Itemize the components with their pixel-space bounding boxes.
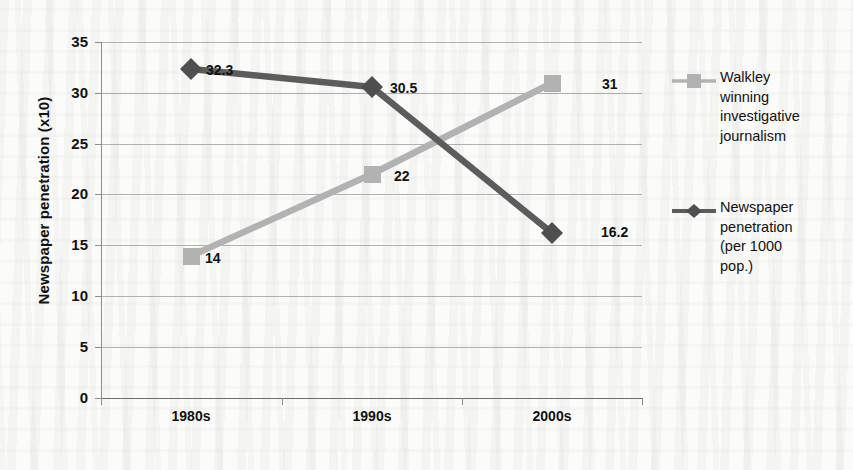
chart-legend: Walkley winning investigative journalism…	[672, 68, 847, 302]
legend-label-walkley: Walkley winning investigative journalism	[720, 68, 847, 146]
data-label-penetration-2000s: 16.2	[601, 224, 628, 240]
data-label-walkley-2000s: 31	[602, 76, 618, 92]
series-penetration-marker-1980s	[180, 58, 202, 80]
data-label-penetration-1980s: 32.3	[206, 62, 233, 78]
square-marker-icon	[672, 74, 716, 88]
legend-item-penetration[interactable]: Newspaper penetration (per 1000 pop.)	[672, 198, 847, 276]
data-label-walkley-1980s: 14	[205, 250, 221, 266]
diamond-marker-icon	[672, 204, 716, 218]
data-label-penetration-1990s: 30.5	[390, 80, 417, 96]
legend-label-penetration: Newspaper penetration (per 1000 pop.)	[720, 198, 847, 276]
series-walkley-marker-1980s	[183, 248, 200, 265]
series-walkley-marker-1990s	[364, 166, 381, 183]
line-chart: Newspaper penetration (x10) 35 30 25 20 …	[0, 0, 853, 470]
data-label-walkley-1990s: 22	[394, 168, 410, 184]
legend-item-walkley[interactable]: Walkley winning investigative journalism	[672, 68, 847, 146]
series-walkley-marker-2000s	[544, 75, 561, 92]
